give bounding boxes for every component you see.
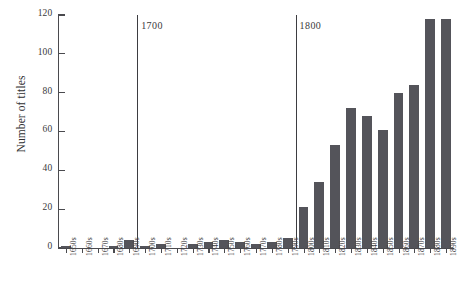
x-axis-tick [351, 248, 352, 253]
x-axis-tick-label: 1770s [259, 237, 268, 256]
bar [441, 19, 451, 248]
y-axis-tick: 80 [58, 92, 65, 93]
x-axis-tick [240, 248, 241, 253]
century-1700-label: 1700 [141, 20, 163, 31]
x-axis-tick [256, 248, 257, 253]
x-axis-tick [446, 248, 447, 253]
x-axis-tick [208, 248, 209, 253]
x-axis-tick-label: 1720s [180, 237, 189, 256]
x-axis-tick [129, 248, 130, 253]
y-axis-tick-label: 100 [38, 47, 53, 57]
bar [362, 116, 372, 248]
x-axis-tick [367, 248, 368, 253]
bar [409, 85, 419, 248]
x-axis-tick-label: 1710s [164, 237, 173, 256]
plot-area: 020406080100120 1650s1660s1670s1680s1690… [58, 15, 454, 248]
x-axis-tick-label: 1820s [338, 237, 347, 256]
x-axis-tick [224, 248, 225, 253]
y-axis-tick: 60 [58, 131, 65, 132]
x-axis-tick-label: 1670s [101, 237, 110, 256]
century-1800-label: 1800 [300, 20, 322, 31]
y-axis-tick-label: 40 [43, 163, 53, 173]
x-axis-tick [145, 248, 146, 253]
y-axis-tick-label: 20 [43, 202, 53, 212]
x-axis-tick-label: 1830s [354, 237, 363, 256]
bar [330, 145, 340, 248]
y-axis-tick: 20 [58, 209, 65, 210]
x-axis-tick [304, 248, 305, 253]
y-axis-title: Number of titles [15, 44, 27, 184]
x-axis-tick [193, 248, 194, 253]
x-axis-tick-label: 1730s [196, 237, 205, 256]
x-axis-tick [430, 248, 431, 253]
x-axis-tick [319, 248, 320, 253]
x-axis-tick [161, 248, 162, 253]
x-axis-tick [288, 248, 289, 253]
x-axis-tick-label: 1860s [402, 237, 411, 256]
x-axis-tick [399, 248, 400, 253]
x-axis-tick-label: 1680s [116, 237, 125, 256]
x-axis-tick [272, 248, 273, 253]
x-axis-tick-label: 1890s [449, 237, 458, 256]
x-axis-tick [414, 248, 415, 253]
century-1800-line [296, 15, 297, 248]
y-axis-tick: 40 [58, 170, 65, 171]
x-axis-tick-label: 1760s [243, 237, 252, 256]
x-axis-tick [383, 248, 384, 253]
x-axis-tick-label: 1700s [148, 237, 157, 256]
y-axis-tick-label: 80 [43, 86, 53, 96]
x-axis-tick-label: 1880s [433, 237, 442, 256]
x-axis-tick [113, 248, 114, 253]
century-1700-line [137, 15, 138, 248]
bar [394, 93, 404, 248]
x-axis-tick-label: 1850s [386, 237, 395, 256]
x-axis-tick-label: 1660s [85, 237, 94, 256]
x-axis-tick-label: 1810s [322, 237, 331, 256]
bar [378, 130, 388, 248]
x-axis-tick-label: 1740s [211, 237, 220, 256]
y-axis-tick-label: 0 [48, 241, 53, 251]
y-axis-tick: 120 [58, 14, 65, 15]
bar [425, 19, 435, 248]
bar [346, 108, 356, 248]
y-axis-tick-label: 120 [38, 8, 53, 18]
x-axis-tick-label: 1780s [275, 237, 284, 256]
x-axis-tick-label: 1840s [370, 237, 379, 256]
x-axis-tick [98, 248, 99, 253]
x-axis-tick-label: 1650s [69, 237, 78, 256]
y-axis-tick-label: 60 [43, 124, 53, 134]
x-axis-tick [82, 248, 83, 253]
x-axis-tick-label: 1870s [417, 237, 426, 256]
x-axis-tick [177, 248, 178, 253]
x-axis-tick [66, 248, 67, 253]
y-axis-tick: 100 [58, 53, 65, 54]
x-axis-tick [335, 248, 336, 253]
x-axis-tick-label: 1750s [227, 237, 236, 256]
x-axis-tick-label: 1800s [307, 237, 316, 256]
